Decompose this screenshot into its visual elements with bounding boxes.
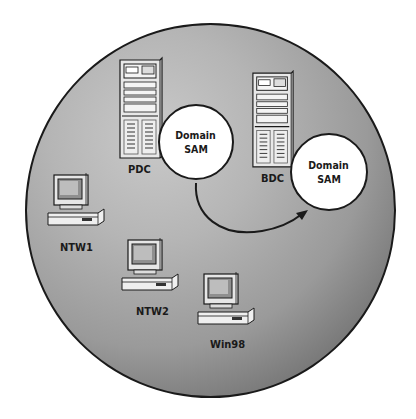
domain-diagram: PDC Domain SAM BDC Domain SAM — [0, 0, 416, 419]
ntw2-workstation-icon — [120, 238, 180, 294]
win98-label: Win98 — [210, 338, 245, 351]
win98-workstation-icon — [196, 272, 256, 328]
ntw1-workstation-icon — [46, 173, 106, 229]
ntw2-label: NTW2 — [136, 305, 169, 318]
ntw1-label: NTW1 — [60, 241, 93, 254]
